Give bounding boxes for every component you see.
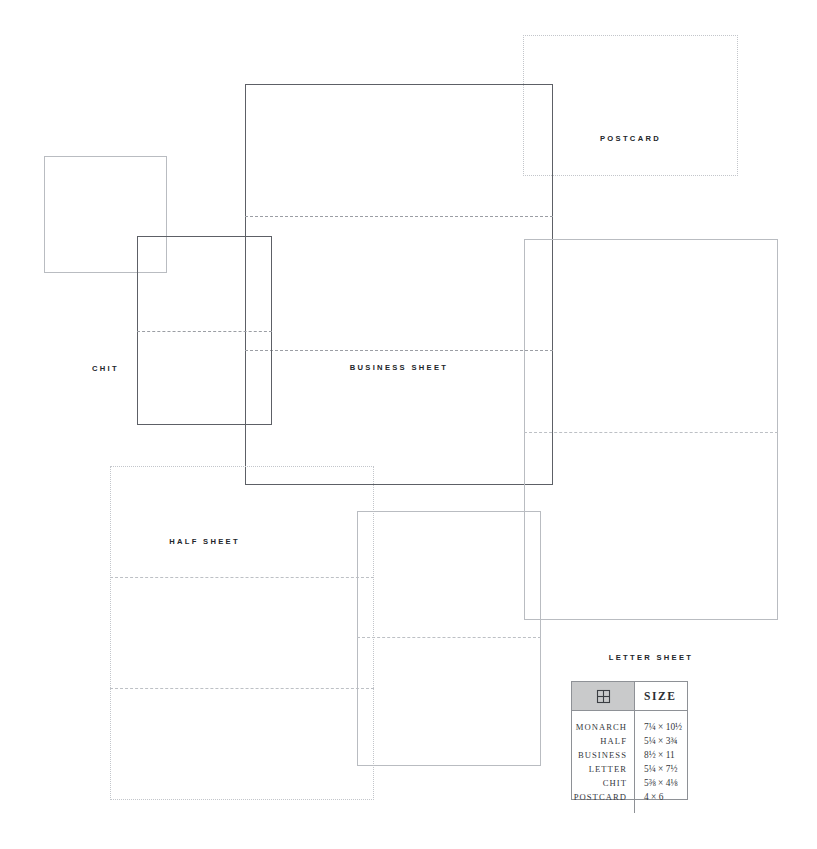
legend-spacer-cell [635, 711, 688, 721]
legend-spacer-cell [572, 711, 635, 721]
sheet-monarch-sheet: MONARCH SHEET [110, 466, 374, 800]
legend-row: CHIT5⅜ × 4⅛ [572, 776, 687, 790]
fold-line-informal-note-1 [357, 637, 541, 638]
fold-line-letter-sheet-1 [524, 432, 778, 433]
legend-row-size: 8½ × 11 [635, 748, 688, 762]
fold-line-business-sheet-1 [245, 216, 553, 217]
legend-row-size: 4 × 6 [635, 790, 688, 804]
grid-window-icon [572, 682, 635, 711]
legend-spacer-cell [572, 804, 635, 813]
sheet-letter-sheet: LETTER SHEET [524, 239, 778, 620]
legend-header-size: SIZE [635, 682, 688, 711]
legend-row: LETTER5¼ × 7½ [572, 762, 687, 776]
legend-row-name: POSTCARD [572, 790, 635, 804]
legend-row-size: 5⅜ × 4⅛ [635, 776, 688, 790]
sheet-half-sheet: HALF SHEET [137, 236, 272, 425]
sheet-outline-letter-sheet [524, 239, 778, 620]
legend-row: HALF5¼ × 3¾ [572, 734, 687, 748]
sheet-outline-postcard [523, 35, 738, 176]
sheet-outline-business-sheet [245, 84, 553, 485]
size-legend-table: SIZE MONARCH7¼ × 10½HALF5¼ × 3¾BUSINESS8… [571, 681, 688, 800]
legend-row-name: CHIT [572, 776, 635, 790]
fold-line-business-sheet-2 [245, 350, 553, 351]
sheet-postcard: POSTCARD [523, 35, 738, 176]
legend-row: MONARCH7¼ × 10½ [572, 720, 687, 734]
sheet-outline-informal-note [357, 511, 541, 766]
fold-line-monarch-sheet-1 [110, 577, 374, 578]
legend-row: BUSINESS8½ × 11 [572, 748, 687, 762]
legend-spacer-row-bottom [572, 804, 687, 813]
legend-body: MONARCH7¼ × 10½HALF5¼ × 3¾BUSINESS8½ × 1… [572, 711, 687, 814]
sheet-label-postcard: POSTCARD [523, 134, 738, 143]
sheet-informal-note: INFORMAL NOTE [357, 511, 541, 766]
legend-header-row: SIZE [572, 682, 687, 711]
legend-row-size: 5¼ × 3¾ [635, 734, 688, 748]
legend-row-size: 5¼ × 7½ [635, 762, 688, 776]
legend-row-name: MONARCH [572, 720, 635, 734]
legend-table: SIZE MONARCH7¼ × 10½HALF5¼ × 3¾BUSINESS8… [572, 682, 687, 813]
legend-row-name: BUSINESS [572, 748, 635, 762]
sheet-outline-monarch-sheet [110, 466, 374, 800]
paper-size-diagram-canvas: POSTCARDCHITBUSINESS SHEETHALF SHEETLETT… [0, 0, 817, 849]
legend-spacer-cell [635, 804, 688, 813]
fold-line-monarch-sheet-2 [110, 688, 374, 689]
fold-line-half-sheet-1 [137, 331, 272, 332]
legend-spacer-row-top [572, 711, 687, 721]
sheet-business-sheet: BUSINESS SHEET [245, 84, 553, 485]
legend-row-name: HALF [572, 734, 635, 748]
sheet-label-letter-sheet: LETTER SHEET [524, 653, 778, 662]
legend-row-size: 7¼ × 10½ [635, 720, 688, 734]
legend-row-name: LETTER [572, 762, 635, 776]
sheet-label-business-sheet: BUSINESS SHEET [245, 363, 553, 372]
legend-row: POSTCARD4 × 6 [572, 790, 687, 804]
